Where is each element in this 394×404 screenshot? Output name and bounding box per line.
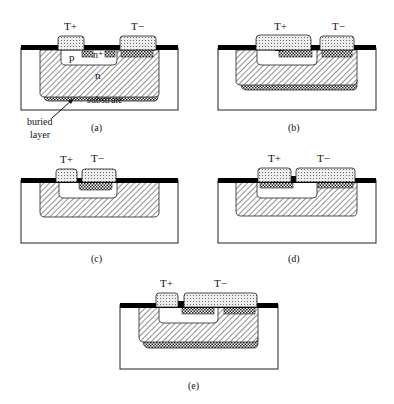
n-plus-region [79, 182, 112, 190]
panel-b: T+ T− (b) [218, 20, 376, 134]
contact-t-plus [256, 35, 311, 50]
contact-t-minus [120, 36, 156, 50]
contact-t-minus [296, 168, 355, 182]
contact-t-minus [82, 169, 116, 182]
caption-a: (a) [91, 122, 102, 134]
label-t-minus: T− [332, 20, 345, 32]
label-buried: buried [27, 116, 53, 127]
n-plus-contact-region [224, 307, 255, 314]
panel-d: T+ T− (d) [218, 152, 376, 265]
label-t-plus: T+ [274, 20, 287, 32]
label-t-plus: T+ [268, 152, 281, 164]
caption-c: (c) [91, 253, 102, 265]
panel-e: T+ T− (e) [120, 277, 278, 392]
contact-t-minus [184, 293, 257, 307]
label-t-minus: T− [317, 152, 330, 164]
n-plus-contact-region [322, 50, 352, 57]
label-t-plus: T+ [64, 20, 77, 32]
n-plus-region-left [82, 51, 93, 57]
semiconductor-cross-sections-figure: T+ T− p n⁺ n substrate buried layer (a) … [0, 0, 394, 404]
label-layer: layer [30, 129, 51, 140]
contact-t-plus [58, 36, 84, 50]
caption-d: (d) [288, 253, 300, 265]
panel-a: T+ T− p n⁺ n substrate buried layer (a) [21, 20, 178, 140]
label-t-plus: T+ [60, 153, 73, 165]
label-n: n [95, 69, 101, 81]
contact-t-plus [258, 168, 291, 182]
contact-t-minus [320, 36, 354, 50]
label-t-minus: T− [91, 152, 104, 164]
contact-t-plus [56, 169, 77, 182]
label-t-plus: T+ [160, 277, 173, 289]
n-plus-contact-region [121, 50, 153, 57]
n-plus-region [182, 307, 214, 314]
label-substrate: substrate [87, 94, 123, 105]
caption-b: (b) [288, 122, 300, 134]
panel-c: T+ T− (c) [21, 152, 178, 265]
n-plus-region [279, 50, 312, 57]
label-p: p [69, 51, 75, 63]
label-n-plus: n⁺ [93, 49, 103, 60]
label-t-minus: T− [131, 20, 144, 32]
contact-t-plus [156, 293, 178, 307]
label-t-minus: T− [214, 277, 227, 289]
caption-e: (e) [188, 380, 199, 392]
n-plus-region-right [105, 51, 115, 57]
